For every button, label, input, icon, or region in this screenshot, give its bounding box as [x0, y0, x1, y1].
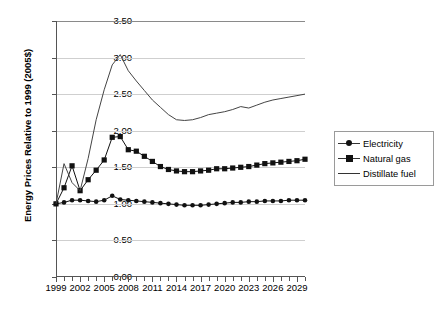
x-tick-mark — [193, 277, 194, 281]
legend-label: Natural gas — [360, 154, 411, 164]
x-tick-mark — [112, 277, 113, 281]
gridline-top — [57, 21, 305, 22]
gridline — [57, 240, 305, 241]
x-tick-mark — [120, 277, 121, 281]
chart-container: Energy Prices Relative to 1999 (2005$) 0… — [0, 0, 441, 318]
x-tick-mark — [72, 277, 73, 281]
gridline — [57, 167, 305, 168]
x-tick-mark — [185, 277, 186, 281]
x-tick-mark — [144, 277, 145, 281]
legend-item-natural-gas: Natural gas — [338, 151, 429, 166]
legend-marker-square-icon — [338, 153, 360, 165]
legend: Electricity Natural gas Distillate fuel — [334, 131, 434, 186]
legend-marker-circle-icon — [338, 138, 360, 150]
x-tick-mark — [233, 277, 234, 281]
legend-item-distillate-fuel: Distillate fuel — [338, 166, 429, 181]
y-axis-title: Energy Prices Relative to 1999 (2005$) — [22, 11, 33, 261]
legend-item-electricity: Electricity — [338, 136, 429, 151]
x-tick-mark — [64, 277, 65, 281]
x-tick-mark — [88, 277, 89, 281]
x-tick-mark — [257, 277, 258, 281]
x-tick-mark — [168, 277, 169, 281]
gridline — [57, 94, 305, 95]
legend-marker-line-icon — [338, 168, 360, 180]
x-tick-mark — [160, 277, 161, 281]
x-tick-mark — [305, 277, 306, 281]
plot-area — [56, 21, 305, 277]
x-tick-mark — [289, 277, 290, 281]
x-tick-mark — [265, 277, 266, 281]
x-tick-mark — [241, 277, 242, 281]
legend-label: Electricity — [360, 139, 403, 149]
x-tick-mark — [209, 277, 210, 281]
x-tick-mark — [217, 277, 218, 281]
gridline — [57, 204, 305, 205]
x-tick-mark — [96, 277, 97, 281]
x-tick-label: 2029 — [279, 283, 315, 293]
x-tick-mark — [136, 277, 137, 281]
gridline — [57, 131, 305, 132]
gridline — [57, 58, 305, 59]
legend-label: Distillate fuel — [360, 169, 416, 179]
x-tick-mark — [281, 277, 282, 281]
